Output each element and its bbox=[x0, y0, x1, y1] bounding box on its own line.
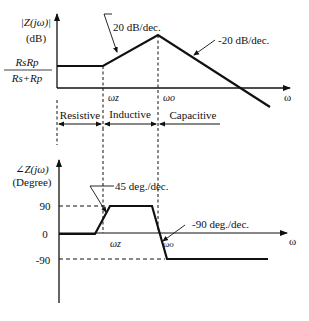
annotation-leader-45deg bbox=[90, 186, 114, 212]
phase-x-label: ω bbox=[289, 235, 296, 247]
phase-plot: ∠Z(jω) (Degree) 90 0 -90 ωz ωo ω 45 deg.… bbox=[12, 128, 296, 303]
phase-y-unit: (Degree) bbox=[12, 176, 51, 189]
level-denominator: Rs+Rp bbox=[11, 72, 43, 84]
region-capacitive: Capacitive bbox=[169, 109, 216, 121]
annotation-leader-20db bbox=[104, 14, 117, 52]
annotation-45deg: 45 deg./dec. bbox=[115, 180, 169, 192]
magnitude-y-unit: (dB) bbox=[26, 32, 47, 45]
level-numerator: RsRp bbox=[14, 56, 39, 68]
region-band: Resistive Inductive Capacitive bbox=[57, 100, 220, 145]
omega-o-label-bottom: ωo bbox=[163, 239, 174, 249]
omega-z-label-bottom: ωz bbox=[110, 238, 121, 249]
annotation-minus20db: -20 dB/dec. bbox=[218, 34, 270, 46]
bode-diagram: |Z(jω)| (dB) RsRp Rs+Rp ωz ωo ω 20 dB/de… bbox=[0, 0, 309, 321]
phase-y-label: ∠Z(jω) bbox=[15, 163, 49, 176]
tick-0: 0 bbox=[42, 228, 48, 240]
annotation-minus90deg: -90 deg./dec. bbox=[192, 218, 249, 230]
tick-90: 90 bbox=[40, 200, 52, 212]
region-resistive: Resistive bbox=[60, 109, 100, 121]
omega-o-label-top: ωo bbox=[163, 92, 175, 103]
annotation-20db: 20 dB/dec. bbox=[113, 21, 161, 33]
omega-z-label-top: ωz bbox=[108, 92, 119, 103]
magnitude-y-label: |Z(jω)| bbox=[21, 16, 51, 29]
annotation-leader-minus20db bbox=[194, 40, 215, 55]
tick-minus90: -90 bbox=[36, 254, 51, 266]
magnitude-x-label: ω bbox=[284, 91, 291, 103]
region-inductive: Inductive bbox=[109, 108, 151, 120]
